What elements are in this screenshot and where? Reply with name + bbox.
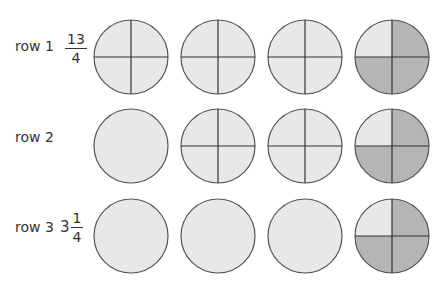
row-1-denominator: 4 [65, 50, 87, 66]
circle-row2-col1 [94, 109, 168, 183]
fraction-bar [71, 227, 83, 228]
fraction-bar [65, 48, 87, 49]
circle-row3-col4 [355, 199, 429, 273]
circle-row2-col4 [355, 109, 429, 183]
row-3-numerator: 1 [71, 210, 83, 226]
row-1-numerator: 13 [65, 31, 87, 47]
circle-row2-col3 [268, 109, 342, 183]
circle-row3-col3 [268, 199, 342, 273]
circle-row3-col2 [181, 199, 255, 273]
circle-row2-col2 [181, 109, 255, 183]
row-1-label: row 1 [15, 38, 54, 54]
row-3-label: row 3 [15, 219, 54, 235]
row-3-whole-number: 3 [60, 218, 70, 236]
circle-row1-col3 [268, 20, 342, 94]
circle-row1-col2 [181, 20, 255, 94]
row-2-label: row 2 [15, 129, 54, 145]
row-3-denominator: 4 [71, 229, 83, 245]
circle-row1-col4 [355, 20, 429, 94]
row-1-fraction: 13 4 [65, 31, 87, 66]
row-3-fraction: 1 4 [71, 210, 83, 245]
circle-row3-col1 [94, 199, 168, 273]
circle-row1-col1 [94, 20, 168, 94]
